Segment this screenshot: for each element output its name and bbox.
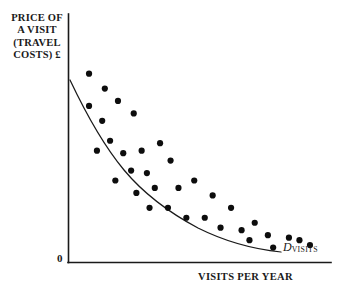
data-point	[157, 140, 163, 146]
data-point	[115, 98, 121, 104]
data-point	[238, 227, 244, 233]
data-point	[94, 148, 100, 154]
x-axis-label: VISITS PER YEAR	[198, 271, 293, 283]
data-point	[99, 118, 105, 124]
data-point	[86, 71, 92, 77]
data-point	[139, 148, 145, 154]
data-point	[102, 85, 108, 91]
origin-tick-label: 0	[57, 252, 63, 264]
demand-curve-label: DVISITS	[283, 240, 318, 255]
data-point	[146, 205, 152, 211]
y-axis-label: PRICE OF A VISIT (TRAVEL COSTS) £	[8, 12, 66, 62]
data-point	[175, 185, 181, 191]
data-point	[202, 215, 208, 221]
data-points-group	[86, 71, 313, 251]
chart-figure: PRICE OF A VISIT (TRAVEL COSTS) £ VISITS…	[0, 0, 344, 297]
data-point	[107, 138, 113, 144]
demand-curve-subscript: VISITS	[292, 245, 318, 254]
data-point	[265, 232, 271, 238]
data-point	[210, 192, 216, 198]
data-point	[246, 237, 252, 243]
data-point	[120, 150, 126, 156]
demand-curve-symbol: D	[283, 240, 292, 254]
demand-curve-group	[70, 80, 281, 252]
data-point	[167, 158, 173, 164]
data-point	[144, 170, 150, 176]
data-point	[133, 190, 139, 196]
data-point	[165, 205, 171, 211]
data-point	[228, 205, 234, 211]
data-point	[217, 225, 223, 231]
data-point	[183, 215, 189, 221]
data-point	[128, 167, 134, 173]
data-point	[112, 177, 118, 183]
data-point	[252, 220, 258, 226]
data-point	[131, 110, 137, 116]
data-point	[152, 185, 158, 191]
axes-group	[68, 14, 331, 263]
demand-curve-path	[70, 80, 281, 252]
data-point	[270, 244, 276, 250]
data-point	[86, 103, 92, 109]
data-point	[191, 177, 197, 183]
